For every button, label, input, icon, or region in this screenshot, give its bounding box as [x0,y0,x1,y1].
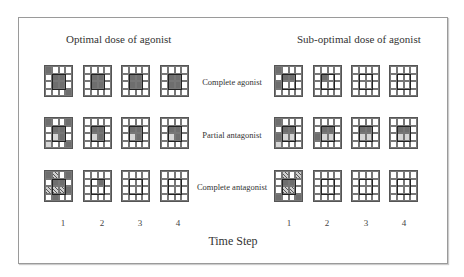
grid-cell [52,66,59,74]
grid-cell [289,171,296,179]
grid-cell [282,66,289,74]
grid-cell [410,126,417,134]
grid-cell [282,126,289,134]
grid-cell [181,133,188,141]
grid-cell [181,74,188,82]
grid-cell [334,141,341,149]
grid-cell [289,179,296,187]
grid-cell [328,133,335,141]
grid-cell [328,81,335,89]
grid-cell [366,81,373,89]
grid-cell [52,81,59,89]
grid-cell [161,81,168,89]
grid-cell [122,81,129,89]
grid-cell [359,118,366,126]
grid-cell [181,81,188,89]
grid-cell [122,126,129,134]
grid-cell [397,133,404,141]
grid-cell [314,74,321,82]
grid-cell [289,89,296,97]
grid-cell [136,89,143,97]
grid-cell [175,81,182,89]
grid-cell [404,74,411,82]
receptor-grid-optimal-complete-antagonist-t3 [121,170,150,202]
grid-cell [175,74,182,82]
grid-cell [136,194,143,202]
grid-cell [404,179,411,187]
receptor-grid-optimal-partial-antagonist-t2 [83,117,112,149]
grid-cell [136,118,143,126]
grid-cell [122,171,129,179]
grid-cell [168,171,175,179]
grid-cell [366,194,373,202]
grid-cell [390,89,397,97]
grid-cell [352,126,359,134]
optimal-dose-title: Optimal dose of agonist [66,33,171,45]
time-tick-optimal-1: 1 [61,218,66,228]
grid-cell [122,141,129,149]
grid-cell [410,118,417,126]
grid-cell [104,171,111,179]
grid-cell [328,194,335,202]
grid-cell [122,194,129,202]
grid-cell [352,133,359,141]
grid-cell [314,81,321,89]
grid-cell [397,186,404,194]
grid-cell [129,179,136,187]
grid-cell [175,186,182,194]
grid-cell [282,141,289,149]
grid-cell [65,194,72,202]
grid-cell [45,81,52,89]
grid-cell [98,126,105,134]
grid-cell [366,126,373,134]
grid-cell [314,194,321,202]
grid-cell [104,74,111,82]
grid-cell [136,66,143,74]
grid-cell [104,186,111,194]
receptor-grid-optimal-complete-agonist-t4 [160,65,189,97]
grid-cell [359,126,366,134]
grid-cell [275,141,282,149]
grid-cell [295,186,302,194]
grid-cell [359,81,366,89]
grid-cell [122,118,129,126]
grid-cell [52,74,59,82]
grid-cell [161,194,168,202]
grid-cell [275,171,282,179]
grid-cell [136,133,143,141]
grid-cell [289,74,296,82]
grid-cell [372,141,379,149]
grid-cell [372,171,379,179]
grid-cell [175,179,182,187]
grid-cell [390,194,397,202]
grid-cell [334,89,341,97]
grid-cell [404,126,411,134]
grid-cell [314,179,321,187]
grid-cell [175,66,182,74]
grid-cell [98,66,105,74]
suboptimal-dose-title: Sub-optimal dose of agonist [297,33,421,45]
receptor-grid-suboptimal-complete-antagonist-t1 [274,170,303,202]
grid-cell [45,186,52,194]
grid-cell [314,133,321,141]
grid-cell [84,126,91,134]
grid-cell [91,81,98,89]
grid-cell [352,118,359,126]
grid-cell [334,186,341,194]
grid-cell [410,81,417,89]
grid-cell [104,179,111,187]
grid-cell [175,141,182,149]
row-label-partial-antagonist: Partial antagonist [202,130,261,140]
grid-cell [328,66,335,74]
receptor-grid-suboptimal-complete-antagonist-t3 [351,170,380,202]
grid-cell [390,133,397,141]
grid-cell [390,118,397,126]
grid-cell [45,126,52,134]
grid-cell [168,194,175,202]
grid-cell [372,179,379,187]
grid-cell [282,74,289,82]
grid-cell [295,118,302,126]
grid-cell [84,186,91,194]
grid-cell [142,118,149,126]
grid-cell [404,81,411,89]
